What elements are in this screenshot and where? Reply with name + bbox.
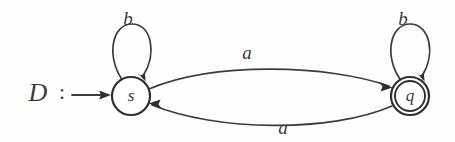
state-s-label: s bbox=[128, 86, 135, 105]
transition-q-to-s-arrowhead bbox=[149, 100, 163, 109]
state-q-label: q bbox=[406, 86, 415, 105]
transition-s-to-q-path bbox=[149, 69, 389, 89]
machine-label: D bbox=[28, 78, 48, 107]
transition-q-self-loop-path bbox=[391, 24, 430, 79]
automaton-canvas: D : b a a b s q bbox=[0, 0, 455, 142]
transition-s-to-q-arrowhead bbox=[379, 82, 393, 92]
transition-s-self-loop-path bbox=[113, 24, 151, 80]
transition-label-q-self-b: b bbox=[398, 8, 408, 29]
transition-label-s-to-q-a: a bbox=[242, 42, 252, 63]
machine-label-separator: : bbox=[59, 79, 65, 104]
automaton-figure: D : b a a b s q bbox=[0, 0, 455, 142]
transition-q-to-s-path bbox=[152, 105, 392, 125]
transition-label-s-self-b: b bbox=[123, 8, 133, 29]
transition-label-q-to-s-a: a bbox=[278, 117, 288, 138]
